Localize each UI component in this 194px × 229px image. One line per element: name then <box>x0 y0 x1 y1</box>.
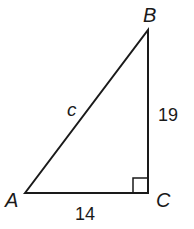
side-label-hypotenuse: c <box>67 99 77 120</box>
side-label-ac: 14 <box>75 204 95 224</box>
triangle <box>25 30 148 193</box>
vertex-label-b: B <box>143 4 156 26</box>
triangle-diagram: B A C c 19 14 <box>0 0 194 229</box>
vertex-label-a: A <box>4 189 18 211</box>
side-label-bc: 19 <box>158 105 178 125</box>
vertex-label-c: C <box>156 189 171 211</box>
right-angle-marker <box>133 178 148 193</box>
